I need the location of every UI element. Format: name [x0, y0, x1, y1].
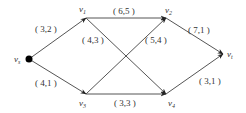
node-label-v1: v1 [79, 4, 86, 15]
node-label-v2: v2 [165, 5, 172, 16]
edge-label-vs-v1: ( 3,2 ) [35, 24, 57, 34]
edge-label-v2-vt: ( 7,1 ) [188, 25, 210, 35]
node-label-v3: v3 [79, 98, 86, 109]
node-label-vs: vs [14, 54, 21, 65]
edge-label-v1-v2: ( 6,5 ) [113, 6, 135, 16]
node-label-vt: vt [227, 49, 233, 60]
edge-label-v3-v4: ( 3,3 ) [114, 98, 136, 108]
flow-network-diagram: ( 3,2 )( 4,1 )( 6,5 )( 4,3 )( 5,4 )( 3,3… [0, 0, 246, 113]
source-node-dot [26, 56, 33, 63]
edge-v2-vt [166, 18, 223, 54]
edge-label-v3-v2: ( 5,4 ) [145, 35, 167, 45]
edge-vs-v3 [29, 59, 86, 94]
edge-label-v4-vt: ( 3,1 ) [199, 76, 221, 86]
edge-label-v1-v4: ( 4,3 ) [82, 35, 104, 45]
node-label-v4: v4 [168, 98, 175, 109]
edge-v4-vt [166, 54, 223, 94]
edge-label-vs-v3: ( 4,1 ) [35, 78, 57, 88]
